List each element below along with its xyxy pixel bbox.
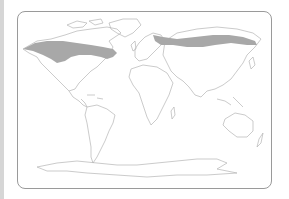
japan-outline [249,57,255,69]
central-america-outline [69,91,87,107]
arctic-islands-outline [67,19,103,28]
boreal-region-eurasia [153,35,257,47]
south-america-outline [85,105,115,163]
africa-outline [129,65,173,125]
antarctica-outline [37,159,237,177]
uk-outline [131,41,136,51]
new-zealand-outline [257,133,263,147]
southeast-asia-islands-outline [217,97,243,107]
caribbean-outline [87,95,103,99]
north-america-outline [23,27,121,91]
left-edge-bar [0,0,4,199]
australia-outline [223,113,253,137]
boreal-region-north-america [23,41,117,63]
madagascar-outline [171,107,175,119]
greenland-outline [109,19,141,37]
world-map [17,11,272,189]
